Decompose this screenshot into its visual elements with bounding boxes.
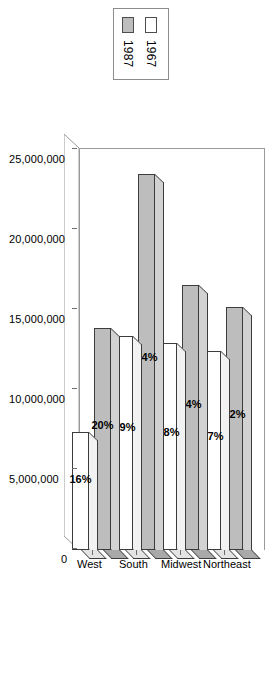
- bar-label-west-1987: 20%: [91, 419, 113, 432]
- category-label-northeast: Northeast: [203, 558, 251, 570]
- value-axis-tick: [72, 148, 77, 149]
- value-axis-tick: [72, 548, 77, 549]
- category-axis-tick: [224, 550, 225, 555]
- legend-item-1987: 1987: [119, 17, 138, 71]
- plot-area: 22% 27% 24% 28% 34%: [79, 148, 265, 550]
- value-axis-tick: [72, 468, 77, 469]
- legend-item-1967: 1967: [142, 17, 161, 71]
- chart-legend: 1967 1987: [113, 8, 169, 80]
- category-label-midwest: Midwest: [161, 558, 201, 570]
- value-axis-label: 10,000,000: [9, 393, 65, 405]
- category-axis-tick: [136, 550, 137, 555]
- legend-swatch-1987: [123, 17, 135, 33]
- bar-top-face: [133, 336, 142, 559]
- value-axis-label: 15,000,000: [9, 313, 65, 325]
- bar-top-face: [199, 285, 208, 559]
- legend-label-1987: 1987: [122, 40, 136, 68]
- bar-top-face: [243, 307, 252, 559]
- value-axis-label: 0: [61, 553, 67, 565]
- bar-top-face: [89, 432, 98, 559]
- bar-top-face: [221, 351, 230, 559]
- category-axis: Northeast Midwest South West: [69, 550, 265, 602]
- value-axis-tick: [72, 228, 77, 229]
- legend-swatch-1967: [146, 17, 158, 33]
- category-label-south: South: [119, 558, 148, 570]
- category-axis-tick: [180, 550, 181, 555]
- value-axis-tick: [72, 388, 77, 389]
- bar-top-face: [177, 343, 186, 559]
- category-label-west: West: [77, 558, 102, 570]
- value-axis-tick: [72, 308, 77, 309]
- value-axis: 25,000,000 20,000,000 15,000,000 10,000,…: [7, 134, 77, 550]
- chart-canvas: 1967 1987 22% 27% 24%: [0, 0, 273, 678]
- value-axis-label: 20,000,000: [9, 233, 65, 245]
- value-axis-label: 25,000,000: [9, 153, 65, 165]
- bar-top-face: [155, 174, 164, 559]
- category-axis-tick: [92, 550, 93, 555]
- legend-label-1967: 1967: [145, 40, 159, 68]
- bar-top-face: [111, 328, 120, 559]
- value-axis-label: 5,000,000: [9, 473, 59, 485]
